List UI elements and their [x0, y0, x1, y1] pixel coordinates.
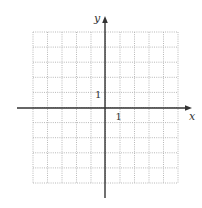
y-axis	[102, 16, 108, 198]
y-axis-label: y	[93, 12, 101, 25]
x-unit-tick-label: 1	[116, 111, 122, 122]
y-axis-arrow-icon	[102, 16, 108, 23]
coordinate-plane: x y 1 1	[0, 0, 202, 208]
x-axis-label: x	[189, 110, 196, 123]
y-unit-tick-label: 1	[95, 89, 101, 100]
